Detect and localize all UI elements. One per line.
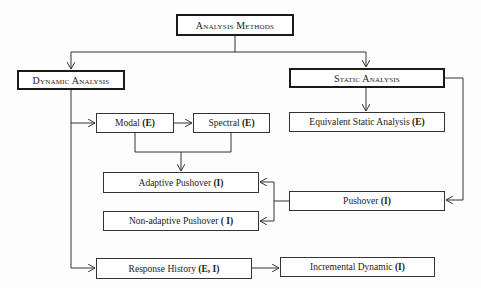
- equivalent-static-label: Equivalent Static Analysis: [309, 117, 409, 127]
- equivalent-static-tag: (E): [412, 117, 425, 127]
- adaptive-pushover-box: Adaptive Pushover (I): [103, 172, 259, 193]
- spectral-box: Spectral (E): [193, 113, 270, 133]
- spectral-tag: (E): [242, 118, 255, 128]
- dynamic-analysis-box: Dynamic Analysis: [17, 70, 125, 90]
- equivalent-static-box: Equivalent Static Analysis (E): [289, 112, 445, 132]
- dynamic-analysis-label: Dynamic Analysis: [33, 75, 110, 86]
- pushover-tag: (I): [381, 196, 391, 206]
- response-history-tag: (E, I): [198, 264, 219, 274]
- static-analysis-label: Static Analysis: [334, 73, 400, 84]
- analysis-methods-label: Analysis Methods: [196, 20, 274, 31]
- response-history-box: Response History (E, I): [96, 258, 252, 279]
- analysis-methods-box: Analysis Methods: [176, 14, 294, 36]
- diagram-canvas: Analysis Methods Dynamic Analysis Static…: [0, 0, 481, 288]
- modal-box: Modal (E): [96, 113, 174, 133]
- incremental-dynamic-label: Incremental Dynamic: [310, 262, 393, 272]
- pushover-label: Pushover: [343, 196, 378, 206]
- static-analysis-box: Static Analysis: [289, 68, 445, 88]
- spectral-label: Spectral: [208, 118, 239, 128]
- response-history-label: Response History: [129, 264, 196, 274]
- non-adaptive-pushover-tag: ( I): [221, 216, 233, 226]
- pushover-box: Pushover (I): [289, 191, 445, 211]
- connector-lines: [0, 0, 481, 288]
- modal-tag: (E): [142, 118, 155, 128]
- adaptive-pushover-tag: (I): [213, 178, 223, 188]
- non-adaptive-pushover-label: Non-adaptive Pushover: [129, 216, 218, 226]
- incremental-dynamic-tag: (I): [395, 262, 405, 272]
- incremental-dynamic-box: Incremental Dynamic (I): [280, 257, 435, 277]
- modal-label: Modal: [115, 118, 140, 128]
- non-adaptive-pushover-box: Non-adaptive Pushover ( I): [103, 211, 259, 231]
- adaptive-pushover-label: Adaptive Pushover: [139, 178, 212, 188]
